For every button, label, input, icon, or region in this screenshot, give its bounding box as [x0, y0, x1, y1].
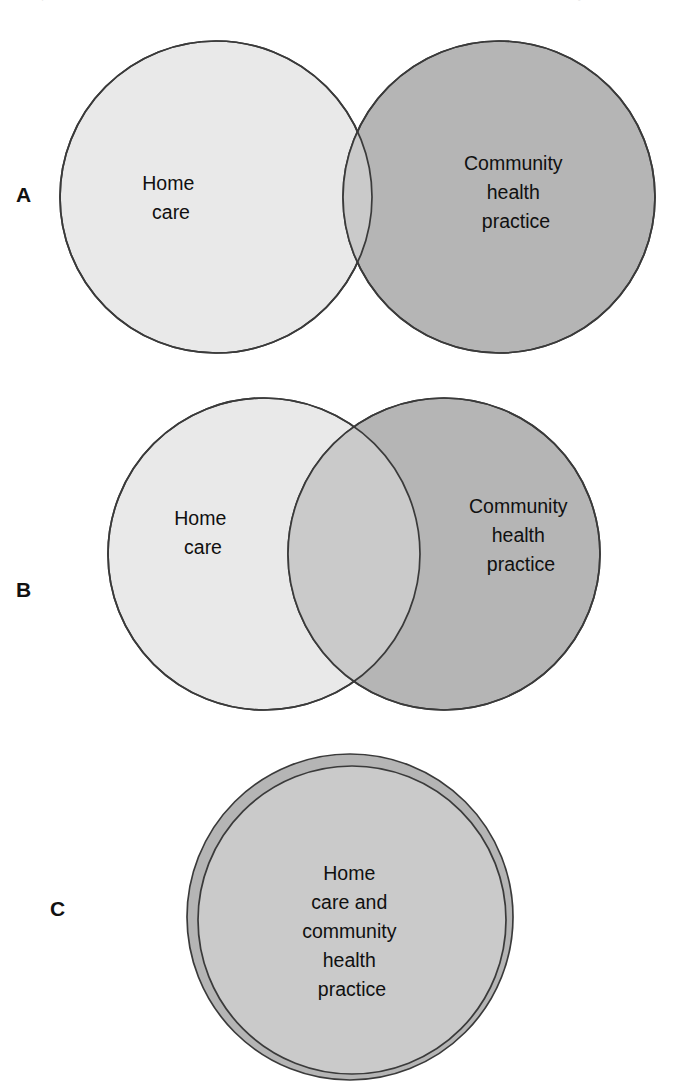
- panel-b: B Home care Community health prac: [0, 380, 673, 720]
- panel-a: A Home care Community: [0, 20, 673, 370]
- set-home-care-circle-a: [60, 41, 372, 353]
- panel-c-graphic: Home care and community health practice: [0, 730, 673, 1086]
- panel-c: C Home care and community health practic…: [0, 730, 673, 1086]
- panel-a-graphic: Home care Community health practice: [0, 20, 673, 370]
- panel-b-graphic: Home care Community health practice: [0, 380, 673, 720]
- venn-diagram-figure: A Home care Community: [0, 0, 673, 1086]
